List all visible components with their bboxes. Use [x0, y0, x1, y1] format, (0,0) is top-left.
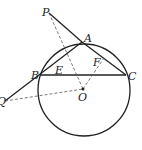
label-c: C	[128, 70, 137, 83]
label-a: A	[83, 32, 92, 45]
label-p: P	[41, 6, 50, 19]
label-f: F	[92, 56, 101, 69]
segment-po-dashed	[49, 13, 83, 89]
geometry-diagram: P A B C E F O Q	[0, 0, 142, 150]
label-q: Q	[0, 95, 6, 108]
segment-pa	[49, 13, 82, 42]
segment-qa	[5, 42, 82, 101]
label-o: O	[78, 91, 87, 104]
label-b: B	[30, 69, 39, 82]
label-e: E	[54, 64, 63, 77]
segment-qo-dashed	[5, 89, 83, 101]
